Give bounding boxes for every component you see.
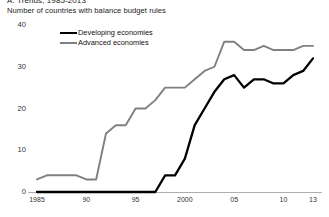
series-line-developing	[37, 58, 313, 192]
plot-area	[0, 0, 329, 217]
y-tick-label: 0	[4, 187, 26, 196]
y-tick-label: 20	[4, 104, 26, 113]
x-tick-label: 90	[71, 196, 101, 203]
y-tick-label: 10	[4, 145, 26, 154]
x-tick-label: 2000	[170, 196, 200, 203]
x-tick-label: 95	[121, 196, 151, 203]
series-line-advanced	[37, 42, 313, 180]
x-tick-label: 1985	[22, 196, 52, 203]
x-tick-label: 10	[268, 196, 298, 203]
x-tick-label: 05	[219, 196, 249, 203]
x-tick-label: 13	[298, 196, 328, 203]
y-tick-label: 30	[4, 62, 26, 71]
chart-figure: A. Trends, 1985-2013 Number of countries…	[0, 0, 329, 217]
y-tick-label: 40	[4, 20, 26, 29]
